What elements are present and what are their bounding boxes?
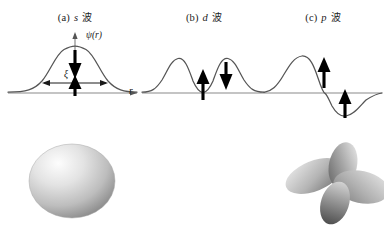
panel-symmetry-symbol-a: s	[73, 12, 79, 23]
spin-down-arrow-d	[220, 62, 233, 90]
spin-up-arrow-d	[197, 69, 210, 100]
panel-caption-b: (b) d 波	[140, 9, 268, 24]
orbital-s-sphere	[26, 139, 118, 221]
panel-word-b: 波	[212, 12, 222, 23]
figure-root: (a) s 波	[0, 0, 384, 238]
wave-plot-p	[262, 26, 384, 102]
panel-caption-a: (a) s 波	[0, 9, 150, 24]
coherence-length-label-s: ξ	[64, 69, 68, 79]
panel-index-a: (a)	[58, 12, 70, 23]
panel-caption-c: (c) p 波	[262, 9, 384, 24]
panel-index-c: (c)	[305, 12, 317, 23]
panel-index-b: (b)	[186, 12, 199, 23]
panel-p-wave: (c) p 波	[262, 0, 384, 238]
spin-down-arrow-s	[69, 50, 82, 79]
panel-word-c: 波	[331, 12, 341, 23]
y-axis-label-s: ψ(r)	[86, 30, 102, 40]
panel-word-a: 波	[82, 12, 92, 23]
panel-s-wave: (a) s 波	[0, 0, 150, 238]
panel-symmetry-symbol-c: p	[320, 12, 327, 23]
panel-d-wave: (b) d 波	[140, 0, 268, 238]
wave-plot-s	[0, 26, 150, 102]
wave-plot-d	[140, 26, 268, 102]
x-axis-label-s: r	[129, 86, 133, 96]
x-axis-s	[8, 90, 137, 95]
panel-symmetry-symbol-b: d	[202, 12, 209, 23]
